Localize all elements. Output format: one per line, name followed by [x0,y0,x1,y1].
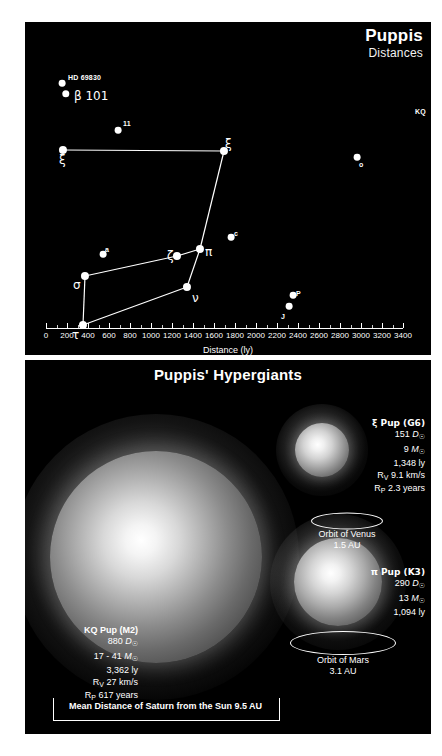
star-point [173,252,181,260]
star-point [62,90,69,97]
star-label: c [234,230,238,237]
axis-tick-label: 3400 [394,331,412,340]
pi-pup-mass: 13 M☉ [371,593,425,607]
axis-tick-minor [309,325,310,328]
star-label: ζ [167,250,174,262]
xi-pup-rv: RV 9.1 km/s [372,470,425,483]
axis-tick-label: 3200 [373,331,391,340]
mars-orbit-label: Orbit of Mars 3.1 AU [317,655,369,677]
axis-tick-minor [141,325,142,328]
star-label: HD 69830 [68,74,101,81]
kq-pup-name: KQ Pup (M2) [30,625,138,636]
star-label: σ [73,279,81,291]
distances-panel: Puppis Distances HD 69830β 10111ξξoKQaζπ… [25,22,431,355]
star-point [59,80,66,87]
kq-pup-diameter: 880 D☉ [30,636,138,650]
axis-tick-minor [393,325,394,328]
kq-pup-distance: 3,362 ly [30,665,138,676]
axis-tick [361,323,362,328]
axis-tick [298,323,299,328]
venus-orbit-name: Orbit of Venus [318,529,375,540]
axis-tick-label: 600 [102,331,115,340]
hypergiants-stage: Orbit of Venus 1.5 AU Orbit of Mars 3.1 … [25,360,431,734]
mars-orbit-ellipse [290,631,396,655]
pi-pup-datablock: π Pup (K3) 290 D☉ 13 M☉ 1,094 ly [371,567,425,619]
star-label: ν [192,292,199,304]
hypergiants-panel: Puppis' Hypergiants Orbit of Venus 1.5 A… [25,360,431,734]
axis-tick-minor [330,325,331,328]
axis-tick [109,323,110,328]
axis-tick-label: 0 [44,331,48,340]
axis-tick-minor [267,325,268,328]
mars-orbit-name: Orbit of Mars [317,655,369,666]
axis-tick [235,323,236,328]
axis-tick [319,323,320,328]
mars-orbit-value: 3.1 AU [317,666,369,677]
axis-tick-minor [162,325,163,328]
axis-tick [256,323,257,328]
axis-tick [172,323,173,328]
star-label: β 101 [74,90,108,102]
kq-pup-mass: 17 - 41 M☉ [30,651,138,665]
axis-tick-minor [57,325,58,328]
star-label: a [105,246,109,253]
xi-pup-name: ξ Pup (G6) [372,418,425,429]
axis-tick [340,323,341,328]
xi-pup-mass: 9 M☉ [372,444,425,458]
xi-pup-diameter: 151 D☉ [372,429,425,443]
axis-tick-minor [288,325,289,328]
axis-tick [46,323,47,328]
star-point [196,245,204,253]
venus-orbit-label: Orbit of Venus 1.5 AU [318,529,375,551]
distance-axis: 0200400600800100012001400160018002000220… [25,318,431,355]
axis-tick [214,323,215,328]
axis-tick [277,323,278,328]
axis-tick-label: 800 [123,331,136,340]
axis-tick-label: 1400 [184,331,202,340]
axis-tick-label: 400 [81,331,94,340]
kq-pup-datablock: KQ Pup (M2) 880 D☉ 17 - 41 M☉ 3,362 ly R… [30,625,138,703]
star-point [183,283,191,291]
star-label: KQ [415,108,426,115]
saturn-scalebar-label: Mean Distance of Saturn from the Sun 9.5… [53,696,278,716]
axis-line [46,328,403,329]
axis-tick-minor [351,325,352,328]
axis-tick-label: 2800 [331,331,349,340]
venus-orbit-value: 1.5 AU [318,540,375,551]
axis-tick [193,323,194,328]
axis-tick-minor [225,325,226,328]
star-point [354,154,361,161]
axis-tick [382,323,383,328]
axis-tick-minor [246,325,247,328]
axis-tick-label: 1000 [142,331,160,340]
star-label: o [359,161,363,168]
axis-tick-minor [372,325,373,328]
axis-tick-label: 2000 [247,331,265,340]
xi-pup-rp: RP 2.3 years [372,483,425,496]
axis-tick-label: 200 [60,331,73,340]
venus-orbit-ellipse [311,513,383,530]
star-label: π [205,246,212,258]
axis-tick-label: 2600 [310,331,328,340]
star-label: ξ [225,138,232,150]
axis-tick [151,323,152,328]
axis-tick-label: 3000 [352,331,370,340]
axis-tick-label: 1600 [205,331,223,340]
axis-tick-minor [120,325,121,328]
pi-pup-sphere [294,538,382,626]
star-point [286,303,293,310]
star-label: 11 [123,120,131,127]
star-point [81,272,89,280]
pi-pup-distance: 1,094 ly [371,607,425,618]
pi-pup-name: π Pup (K3) [371,567,425,578]
axis-tick-minor [99,325,100,328]
kq-pup-rv: RV 27 km/s [30,677,138,690]
axis-tick-minor [78,325,79,328]
axis-tick-label: 2400 [289,331,307,340]
xi-pup-distance: 1,348 ly [372,458,425,469]
xi-pup-sphere [295,423,349,477]
xi-pup-datablock: ξ Pup (G6) 151 D☉ 9 M☉ 1,348 ly RV 9.1 k… [372,418,425,496]
axis-tick-label: 1200 [163,331,181,340]
axis-tick-label: 2200 [268,331,286,340]
axis-tick-minor [204,325,205,328]
